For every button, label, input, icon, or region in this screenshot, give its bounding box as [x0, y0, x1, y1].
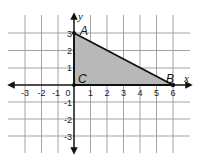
svg-text:0: 0: [65, 88, 70, 98]
svg-text:4: 4: [137, 88, 142, 98]
svg-text:-2: -2: [64, 115, 72, 125]
svg-text:-3: -3: [64, 132, 72, 142]
y-axis-label: y: [77, 10, 83, 22]
y-axis-up-arrow-icon: [72, 14, 77, 19]
svg-text:1: 1: [67, 63, 72, 73]
svg-text:3: 3: [67, 29, 72, 39]
label-a: A: [79, 24, 88, 38]
svg-text:1: 1: [88, 88, 93, 98]
point-c: [72, 83, 76, 87]
x-axis-label: x: [183, 72, 189, 84]
svg-text:-1: -1: [52, 88, 60, 98]
y-axis-down-arrow-icon: [72, 148, 77, 153]
svg-text:2: 2: [67, 46, 72, 56]
point-a: [72, 31, 76, 35]
svg-text:5: 5: [154, 88, 159, 98]
svg-text:-3: -3: [21, 88, 29, 98]
svg-text:-1: -1: [64, 98, 72, 108]
svg-text:3: 3: [121, 88, 126, 98]
coordinate-plane: x y A B C -3 -2 -1 0 1 2 3 4 5 6 3 2 1 -…: [0, 0, 202, 163]
svg-text:6: 6: [170, 88, 175, 98]
svg-text:-2: -2: [37, 88, 45, 98]
svg-text:2: 2: [104, 88, 109, 98]
x-tick-labels: -3 -2 -1 0 1 2 3 4 5 6: [21, 88, 176, 98]
x-axis-left-arrow-icon: [9, 83, 14, 88]
label-b: B: [166, 72, 174, 86]
label-c: C: [78, 72, 87, 86]
